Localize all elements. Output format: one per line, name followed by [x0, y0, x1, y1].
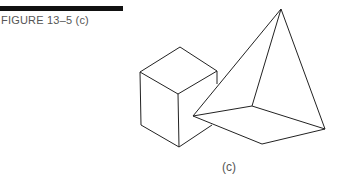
- cube: [140, 47, 217, 147]
- figure-drawing: [0, 0, 342, 188]
- figure-caption: (c): [222, 160, 236, 174]
- pyramid: [193, 9, 325, 144]
